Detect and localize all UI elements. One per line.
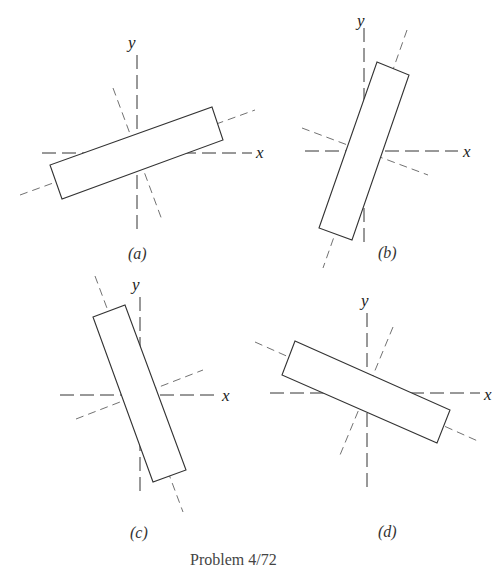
panel-label-a: (a) [128, 246, 147, 262]
x-label-c: x [222, 387, 230, 404]
rectangle-c [93, 305, 186, 482]
y-label-d: y [361, 292, 369, 309]
panel-label-d: (d) [378, 524, 397, 540]
panel-d [255, 313, 480, 491]
panel-label-c: (c) [130, 525, 148, 541]
panel-b [302, 28, 458, 268]
x-label-d: x [484, 386, 492, 403]
y-label-c: y [132, 276, 140, 293]
rectangle-d [282, 341, 450, 443]
y-label-b: y [357, 12, 365, 29]
panel-a [20, 55, 255, 232]
y-label-a: y [128, 34, 136, 51]
panel-c [60, 276, 218, 512]
figure-caption: Problem 4/72 [190, 552, 277, 568]
x-label-b: x [463, 143, 471, 160]
x-label-a: x [256, 144, 264, 161]
panel-label-b: (b) [378, 245, 397, 261]
